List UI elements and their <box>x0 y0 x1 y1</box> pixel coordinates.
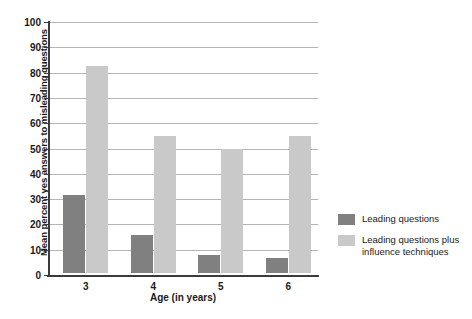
legend-entry: Leading questions plus influence techniq… <box>338 234 470 257</box>
y-axis-tick-label: 60 <box>30 118 41 129</box>
bar <box>266 258 288 273</box>
y-axis-tick <box>44 73 49 74</box>
gridline <box>50 22 318 23</box>
y-axis-tick-label: 20 <box>30 219 41 230</box>
bar <box>198 255 220 273</box>
legend-swatch <box>338 235 355 246</box>
y-axis-tick <box>44 47 49 48</box>
y-axis-tick <box>44 250 49 251</box>
x-axis-tick-label: 5 <box>198 281 243 292</box>
y-axis-tick-label: 100 <box>24 17 41 28</box>
y-axis-tick-label: 10 <box>30 244 41 255</box>
bar <box>86 66 108 273</box>
y-axis-tick-label: 40 <box>30 168 41 179</box>
y-axis-tick <box>44 98 49 99</box>
bar <box>289 136 311 273</box>
chart-legend: Leading questionsLeading questions plus … <box>338 213 470 266</box>
x-axis-line <box>47 275 319 277</box>
plot-area: 0102030405060708090100 3456 <box>48 22 318 275</box>
y-axis-tick <box>44 149 49 150</box>
x-axis-tick-label: 3 <box>63 281 108 292</box>
y-axis-tick <box>44 123 49 124</box>
x-axis-title: Age (in years) <box>48 292 318 303</box>
y-axis-tick <box>44 174 49 175</box>
y-axis-tick-label: 80 <box>30 67 41 78</box>
y-axis-tick <box>44 224 49 225</box>
y-axis-tick <box>44 199 49 200</box>
bar <box>154 136 176 273</box>
legend-entry: Leading questions <box>338 213 470 225</box>
x-axis-tick-label: 4 <box>131 281 176 292</box>
bar <box>63 195 85 273</box>
y-axis-tick <box>44 22 49 23</box>
legend-swatch <box>338 214 355 225</box>
gridline <box>50 47 318 48</box>
bar <box>221 149 243 273</box>
legend-label: Leading questions <box>362 213 439 225</box>
bar <box>131 235 153 273</box>
y-axis-tick-label: 90 <box>30 42 41 53</box>
y-axis-tick <box>44 275 49 276</box>
y-axis-tick-label: 30 <box>30 194 41 205</box>
y-axis-tick-label: 0 <box>35 270 41 281</box>
y-axis-tick-label: 50 <box>30 143 41 154</box>
bar-chart-figure: Mean percent yes answers to misleading q… <box>0 0 472 319</box>
legend-label: Leading questions plus influence techniq… <box>362 234 459 257</box>
y-axis-tick-label: 70 <box>30 92 41 103</box>
x-axis-tick-label: 6 <box>266 281 311 292</box>
